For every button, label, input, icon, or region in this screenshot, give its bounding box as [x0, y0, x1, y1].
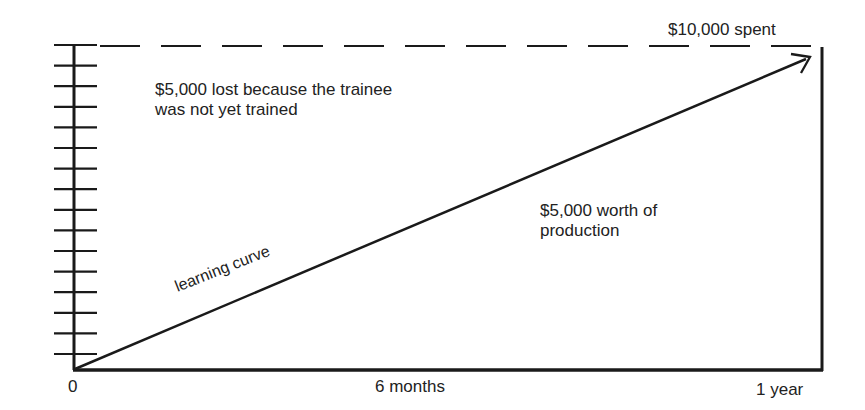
lost-cost-line-2: was not yet trained: [155, 100, 392, 120]
x-tick-1-year: 1 year: [756, 380, 803, 400]
lost-cost-label: $5,000 lost because the trainee was not …: [155, 80, 392, 120]
total-spent-label: $10,000 spent: [668, 20, 776, 40]
production-line-1: $5,000 worth of: [540, 201, 657, 221]
production-line-2: production: [540, 221, 657, 241]
lost-cost-line-1: $5,000 lost because the trainee: [155, 80, 392, 100]
production-value-label: $5,000 worth of production: [540, 201, 657, 241]
x-tick-0: 0: [68, 377, 77, 397]
learning-curve-diagram: [0, 0, 865, 410]
x-tick-6-months: 6 months: [375, 377, 445, 397]
